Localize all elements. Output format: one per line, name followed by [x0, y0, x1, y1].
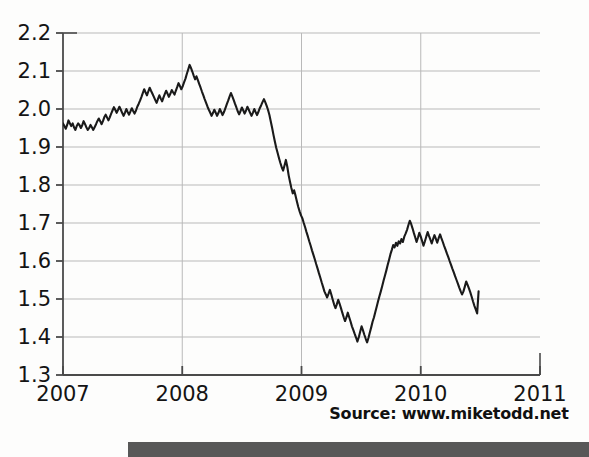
- y-tick-label: 1.4: [18, 325, 51, 349]
- x-tick-label: 2009: [275, 382, 328, 406]
- x-tick-label: 2011: [513, 382, 566, 406]
- y-tick-label: 1.6: [18, 249, 51, 273]
- y-tick-label: 2.0: [18, 97, 51, 121]
- y-tick-label: 2.1: [18, 59, 51, 83]
- bottom-gray-bar: [128, 442, 589, 457]
- y-tick-label: 1.5: [18, 287, 51, 311]
- chart-figure: 1.31.41.51.61.71.81.92.02.12.2 200720082…: [0, 0, 589, 457]
- x-tick-label: 2008: [156, 382, 209, 406]
- x-tick-label: 2007: [36, 382, 89, 406]
- y-tick-label: 1.7: [18, 211, 51, 235]
- exchange-rate-line-chart: 1.31.41.51.61.71.81.92.02.12.2 200720082…: [0, 0, 589, 457]
- y-tick-label: 2.2: [18, 21, 51, 45]
- source-note: Source: www.miketodd.net: [318, 404, 580, 423]
- x-tick-label: 2010: [394, 382, 447, 406]
- y-tick-label: 1.8: [18, 173, 51, 197]
- y-tick-label: 1.9: [18, 135, 51, 159]
